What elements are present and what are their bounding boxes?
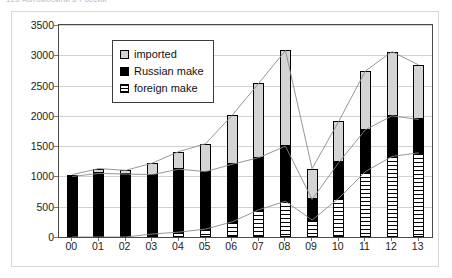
y-axis-tick: 1500: [4, 141, 54, 152]
bar-12: [387, 25, 398, 237]
bar-segment-foreign-make: [360, 172, 371, 237]
bar-segment-foreign-make: [307, 220, 318, 237]
bar-segment-foreign-make: [333, 198, 344, 237]
bar-10: [333, 25, 344, 237]
bar-segment-foreign-make: [387, 156, 398, 237]
x-axis-tickmark: [205, 238, 206, 241]
y-axis-tick: 1000: [4, 171, 54, 182]
bar-segment-russian-make: [67, 176, 78, 237]
bar-11: [360, 25, 371, 237]
x-axis-tick: 11: [350, 241, 378, 252]
x-axis-tick: 08: [270, 241, 298, 252]
x-axis-tick: 06: [217, 241, 245, 252]
y-axis-tick: 2000: [4, 111, 54, 122]
bar-segment-imported: [307, 169, 318, 200]
chart-legend: imported Russian make foreign make: [112, 40, 214, 103]
y-axis-tick: 2500: [4, 81, 54, 92]
bar-06: [227, 25, 238, 237]
x-axis-tickmark: [284, 238, 285, 241]
legend-label-russian-make: Russian make: [134, 66, 204, 77]
x-axis-tickmark: [125, 238, 126, 241]
bar-segment-foreign-make: [173, 232, 184, 237]
bar-segment-imported: [333, 121, 344, 162]
x-axis-tickmark: [178, 238, 179, 241]
bar-09: [307, 25, 318, 237]
bar-segment-imported: [93, 169, 104, 174]
x-axis-tick: 02: [111, 241, 139, 252]
y-axis-tick: 3500: [4, 20, 54, 31]
bar-segment-russian-make: [413, 119, 424, 152]
bar-00: [67, 25, 78, 237]
bar-segment-imported: [253, 83, 264, 158]
bar-segment-imported: [173, 152, 184, 170]
russian-make-swatch-icon: [120, 67, 129, 76]
x-axis-tick: 09: [297, 241, 325, 252]
bar-07: [253, 25, 264, 237]
bar-segment-foreign-make: [253, 210, 264, 237]
bar-segment-imported: [413, 65, 424, 120]
gridline: [59, 116, 432, 117]
bar-segment-imported: [147, 163, 158, 175]
gridline: [59, 176, 432, 177]
legend-item-imported: imported: [120, 46, 204, 63]
caption-text: 120 Автомобили в России: [6, 0, 107, 4]
legend-label-imported: imported: [134, 49, 177, 60]
x-axis-tick: 00: [57, 241, 85, 252]
x-axis-tickmark: [418, 238, 419, 241]
bar-segment-russian-make: [333, 162, 344, 198]
bar-01: [93, 25, 104, 237]
x-axis-tick: 13: [404, 241, 432, 252]
y-axis-tick-labels: 0500100015002000250030003500: [0, 24, 54, 238]
x-axis-tick: 12: [377, 241, 405, 252]
chart-figure: 120 Автомобили в России 0500100015002000…: [0, 0, 452, 278]
legend-item-russian-make: Russian make: [120, 63, 204, 80]
x-axis-tickmark: [151, 238, 152, 241]
bar-segment-imported: [200, 144, 211, 172]
bar-segment-russian-make: [120, 174, 131, 237]
gridline: [59, 146, 432, 147]
bar-segment-imported: [227, 115, 238, 164]
bar-08: [280, 25, 291, 237]
bar-segment-imported: [67, 175, 78, 177]
y-axis-tick: 0: [4, 232, 54, 243]
legend-item-foreign-make: foreign make: [120, 80, 204, 97]
bar-segment-foreign-make: [413, 153, 424, 237]
x-axis-tickmark: [98, 238, 99, 241]
x-axis-tickmark: [258, 238, 259, 241]
bar-segment-imported: [120, 170, 131, 174]
bar-segment-russian-make: [253, 158, 264, 210]
x-axis-tick: 07: [244, 241, 272, 252]
foreign-make-swatch-icon: [120, 84, 129, 93]
gridline: [59, 207, 432, 208]
imported-swatch-icon: [120, 50, 129, 59]
x-axis-tickmark: [364, 238, 365, 241]
bar-segment-russian-make: [387, 116, 398, 157]
x-axis-tick-labels: 0001020304050607080910111213: [58, 241, 433, 257]
bar-segment-russian-make: [173, 169, 184, 232]
bar-segment-russian-make: [360, 130, 371, 172]
bar-segment-imported: [360, 71, 371, 130]
x-axis-tickmark: [71, 238, 72, 241]
gridline: [59, 25, 432, 26]
x-axis-tick: 05: [191, 241, 219, 252]
x-axis-tick: 04: [164, 241, 192, 252]
clipped-caption-strip: 120 Автомобили в России: [0, 0, 452, 9]
x-axis-tickmark: [231, 238, 232, 241]
bar-segment-russian-make: [307, 199, 318, 220]
x-axis-tickmark: [311, 238, 312, 241]
legend-label-foreign-make: foreign make: [134, 83, 198, 94]
x-axis-tick: 10: [324, 241, 352, 252]
bar-segment-imported: [280, 50, 291, 146]
bar-segment-foreign-make: [147, 234, 158, 237]
x-axis-tickmark: [391, 238, 392, 241]
x-axis-tick: 03: [137, 241, 165, 252]
y-axis-tick: 500: [4, 202, 54, 213]
bar-segment-russian-make: [93, 173, 104, 237]
y-axis-tick: 3000: [4, 50, 54, 61]
bar-segment-foreign-make: [280, 201, 291, 237]
bar-segment-foreign-make: [200, 229, 211, 237]
bar-segment-imported: [387, 52, 398, 116]
bar-13: [413, 25, 424, 237]
bar-segment-russian-make: [147, 175, 158, 234]
bar-segment-foreign-make: [227, 222, 238, 237]
